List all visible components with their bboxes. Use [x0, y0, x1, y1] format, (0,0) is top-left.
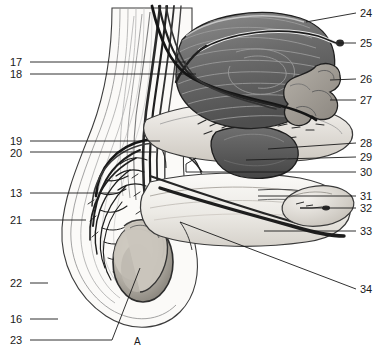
callout-label-32: 32 [360, 203, 372, 214]
anatomy-figure: 171819201321221623 242526272829303132333… [0, 0, 386, 356]
panel-label-a: A [134, 336, 141, 347]
anatomy-illustration [0, 0, 386, 356]
callout-label-17: 17 [10, 57, 22, 68]
callout-label-34: 34 [360, 284, 372, 295]
callout-label-30: 30 [360, 167, 372, 178]
callout-label-25: 25 [360, 38, 372, 49]
callout-label-16: 16 [10, 314, 22, 325]
callout-label-26: 26 [360, 74, 372, 85]
callout-label-13: 13 [10, 188, 22, 199]
callout-label-33: 33 [360, 226, 372, 237]
callout-label-24: 24 [360, 8, 372, 19]
callout-label-23: 23 [10, 335, 22, 346]
callout-label-18: 18 [10, 69, 22, 80]
callout-label-31: 31 [360, 191, 372, 202]
callout-label-21: 21 [10, 215, 22, 226]
callout-label-22: 22 [10, 278, 22, 289]
callout-label-20: 20 [10, 148, 22, 159]
callout-label-27: 27 [360, 95, 372, 106]
callout-label-29: 29 [360, 152, 372, 163]
callout-label-28: 28 [360, 138, 372, 149]
callout-label-19: 19 [10, 136, 22, 147]
